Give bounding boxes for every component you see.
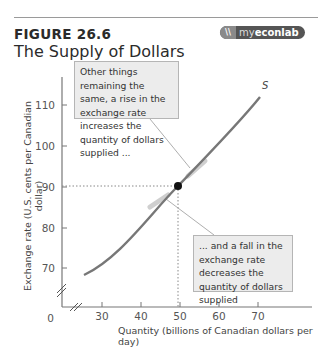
x-tick-30: 30	[95, 310, 108, 322]
x-tick-60: 60	[212, 310, 225, 322]
y-axis-label: Exchange rate (U.S. cents per Canadian d…	[22, 101, 44, 291]
origin-label: 0	[47, 312, 54, 324]
x-tick-70: 70	[251, 310, 264, 322]
x-tick-40: 40	[134, 310, 147, 322]
x-tick-50: 50	[173, 310, 186, 322]
curve-label-s: S	[262, 80, 269, 91]
annotation-upper: Other things remaining the same, a rise …	[74, 61, 179, 119]
highlight-point	[174, 182, 182, 190]
supply-chart: 110 100 90 80 70 0 30 40 50 60 70 S	[0, 0, 328, 357]
annotation-lower: ... and a fall in the exchange rate decr…	[193, 235, 293, 292]
x-axis-label: Quantity (billions of Canadian dollars p…	[118, 325, 328, 347]
note-pointer-lower	[166, 199, 214, 235]
